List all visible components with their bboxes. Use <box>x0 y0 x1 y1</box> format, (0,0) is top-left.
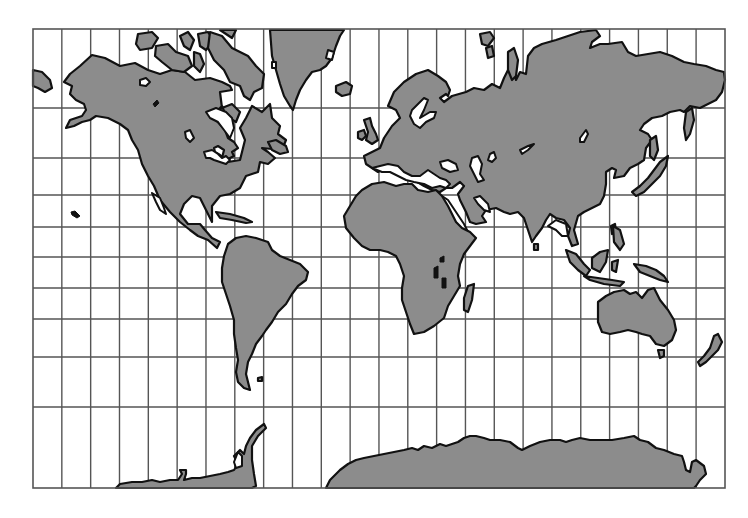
hawaii <box>71 211 80 218</box>
greenland-inlet <box>326 50 334 60</box>
ireland <box>358 130 366 140</box>
lake-tanganyika <box>434 266 438 278</box>
arctic-island-1 <box>136 32 158 50</box>
java <box>584 276 624 286</box>
iceland <box>336 82 352 96</box>
philippines <box>613 226 624 250</box>
chukotka-landmass <box>33 70 52 92</box>
sulawesi <box>612 260 618 272</box>
greenland-lake <box>272 62 276 68</box>
borneo <box>592 250 608 272</box>
africa-landmass <box>344 182 476 334</box>
map-canvas <box>0 0 748 518</box>
svalbard <box>480 32 494 46</box>
antarctica-landmass <box>326 436 706 488</box>
great-britain <box>364 118 378 144</box>
antarctic-peninsula <box>116 424 266 488</box>
tasmania <box>658 350 664 358</box>
arctic-island-3 <box>180 32 194 50</box>
lake-malawi <box>442 278 446 288</box>
franz-josef <box>486 46 494 58</box>
sri-lanka <box>534 244 538 250</box>
falklands <box>258 377 262 381</box>
aral-sea <box>488 152 496 162</box>
cuba <box>216 212 252 223</box>
great-bear-lake <box>140 78 150 86</box>
sakhalin <box>684 108 694 140</box>
sumatra <box>566 250 590 276</box>
japan-north <box>650 136 658 160</box>
novaya-zemlya <box>508 48 518 80</box>
arctic-island-5 <box>194 52 204 72</box>
world-map <box>0 0 748 518</box>
greenland-landmass <box>270 30 344 110</box>
new-zealand <box>698 334 722 366</box>
